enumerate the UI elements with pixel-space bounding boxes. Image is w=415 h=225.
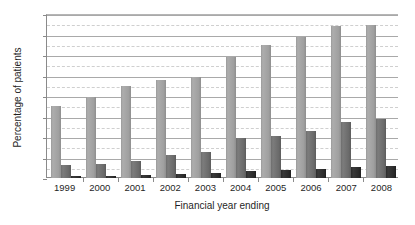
x-axis-tick-label: 1999 xyxy=(47,182,82,193)
bar-group xyxy=(188,15,223,178)
bar xyxy=(366,25,376,178)
bar xyxy=(121,86,131,178)
y-axis-title: Percentage of patients xyxy=(12,23,23,173)
bar xyxy=(51,106,61,178)
bar-group xyxy=(293,15,328,178)
bar xyxy=(166,155,176,178)
bar-group xyxy=(153,15,188,178)
plot-area: 0%2%4%6%8%10%12%14%16% xyxy=(46,14,398,178)
bar xyxy=(156,80,166,178)
bar xyxy=(96,164,106,178)
x-axis-tick-label: 2005 xyxy=(258,182,293,193)
y-axis-tick-mark xyxy=(43,159,47,160)
bar xyxy=(351,167,361,178)
bar xyxy=(176,174,186,178)
bar xyxy=(191,77,201,178)
bar xyxy=(341,122,351,178)
bar xyxy=(211,173,221,178)
y-axis-tick-mark xyxy=(43,138,47,139)
bar-group xyxy=(328,15,363,178)
y-axis-tick-mark xyxy=(43,77,47,78)
bar xyxy=(386,166,396,178)
bar-group xyxy=(83,15,118,178)
bar-group xyxy=(223,15,258,178)
bar xyxy=(71,176,81,178)
x-axis-tick-labels: 1999200020012002200320042005200620072008 xyxy=(47,182,399,193)
bar-group xyxy=(258,15,293,178)
bar xyxy=(61,165,71,178)
y-axis-tick-mark xyxy=(43,56,47,57)
bar-groups xyxy=(48,15,398,178)
x-axis-tick-label: 2004 xyxy=(223,182,258,193)
y-axis-tick-mark xyxy=(43,118,47,119)
bar-group xyxy=(48,15,83,178)
x-axis-tick-label: 2007 xyxy=(329,182,364,193)
bar xyxy=(261,45,271,178)
bar xyxy=(296,37,306,178)
bar xyxy=(376,119,386,178)
bar xyxy=(331,26,341,178)
y-axis-tick-mark xyxy=(43,179,47,180)
bar-group xyxy=(363,15,398,178)
x-axis-tick-label: 2000 xyxy=(82,182,117,193)
bar xyxy=(86,97,96,178)
bar-group xyxy=(118,15,153,178)
bar xyxy=(306,131,316,178)
bar xyxy=(271,136,281,178)
y-axis-tick-mark xyxy=(43,15,47,16)
bar xyxy=(236,138,246,178)
x-axis-tick-label: 2006 xyxy=(293,182,328,193)
x-axis-tick-label: 2002 xyxy=(153,182,188,193)
x-axis-tick-label: 2001 xyxy=(117,182,152,193)
y-axis-tick-mark xyxy=(43,97,47,98)
bar xyxy=(106,176,116,178)
bar xyxy=(226,57,236,178)
x-axis-tick-label: 2003 xyxy=(188,182,223,193)
bar xyxy=(141,175,151,178)
x-axis-title: Financial year ending xyxy=(46,200,398,211)
bar xyxy=(316,169,326,178)
bar-chart: Percentage of patients 0%2%4%6%8%10%12%1… xyxy=(0,0,415,225)
bar xyxy=(246,171,256,178)
bar xyxy=(201,152,211,178)
bar xyxy=(281,170,291,178)
bar xyxy=(131,161,141,178)
y-axis-tick-mark xyxy=(43,36,47,37)
x-axis-tick-label: 2008 xyxy=(364,182,399,193)
